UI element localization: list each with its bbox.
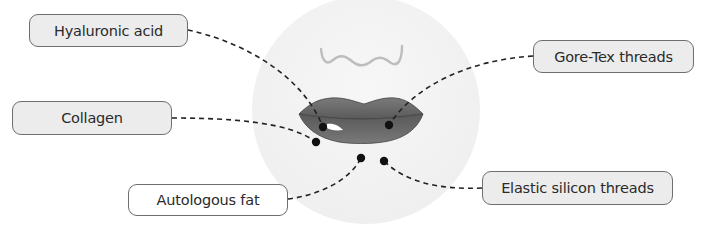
dot-elastic-silicon-threads [380, 157, 388, 165]
label-text: Autologous fat [157, 192, 260, 208]
dot-collagen [312, 138, 320, 146]
label-text: Elastic silicon threads [501, 180, 654, 196]
label-text: Collagen [61, 110, 123, 126]
dot-autologous-fat [357, 154, 365, 162]
lip-filler-diagram: Hyaluronic acid Gore-Tex threads Collage… [0, 0, 727, 227]
dot-hyaluronic-acid [319, 123, 327, 131]
dot-gore-tex-threads [385, 121, 393, 129]
label-collagen: Collagen [12, 101, 172, 135]
label-gore-tex-threads: Gore-Tex threads [533, 40, 694, 73]
label-hyaluronic-acid: Hyaluronic acid [29, 14, 188, 47]
label-text: Hyaluronic acid [54, 23, 163, 39]
label-elastic-silicon-threads: Elastic silicon threads [482, 171, 673, 205]
label-text: Gore-Tex threads [554, 49, 673, 65]
label-autologous-fat: Autologous fat [128, 184, 288, 216]
